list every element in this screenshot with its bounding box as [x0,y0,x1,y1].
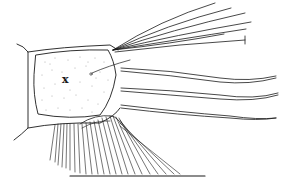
illustration [0,0,287,185]
long-setae [121,68,278,120]
label-x: x [62,73,69,86]
ventral-setae-brush [50,116,180,174]
stipple-dots [42,57,109,113]
apical-setae-fan [113,3,251,52]
stippled-plate [34,50,116,117]
